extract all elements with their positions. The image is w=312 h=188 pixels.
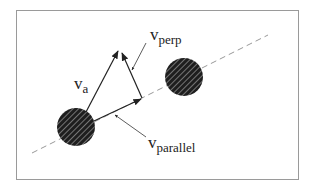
vector-decomposition-diagram: va vperp vparallel	[0, 0, 312, 188]
vparallel-pointer	[115, 115, 146, 137]
va-arrow	[86, 51, 118, 112]
vperp-label: vperp	[150, 25, 182, 47]
va-label: va	[74, 74, 89, 96]
particle-a	[57, 108, 95, 146]
vperp-pointer	[132, 43, 146, 70]
vparallel-label: vparallel	[148, 133, 196, 155]
vparallel-arrow	[94, 99, 141, 121]
vperp-arrow	[122, 53, 142, 98]
particle-b	[165, 58, 203, 96]
